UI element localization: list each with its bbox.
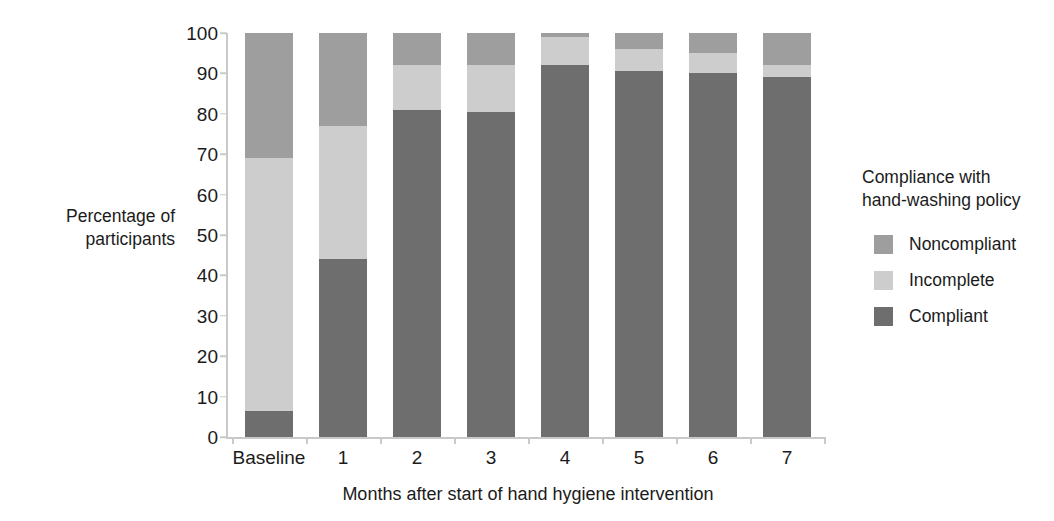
- x-axis-tick-label: 3: [486, 447, 497, 469]
- bar-segment-incomplete: [541, 37, 589, 65]
- x-axis-tick-label: 5: [634, 447, 645, 469]
- y-axis-tick-label: 60: [197, 185, 218, 204]
- bar-stack: [393, 33, 441, 437]
- y-axis-tick-label: 80: [197, 104, 218, 123]
- y-axis-tick-label: 10: [197, 387, 218, 406]
- bar-segment-noncompliant: [763, 33, 811, 65]
- x-axis-tick-mark: [454, 437, 456, 444]
- x-axis-tick-mark: [232, 437, 234, 444]
- legend: Compliance with hand-washing policy Nonc…: [862, 166, 1054, 334]
- y-axis-tick-mark: [220, 436, 227, 438]
- bar-stack: [245, 33, 293, 437]
- bar-segment-incomplete: [319, 126, 367, 259]
- bar-segment-compliant: [615, 71, 663, 437]
- bar-segment-compliant: [319, 259, 367, 437]
- legend-label: Noncompliant: [909, 234, 1016, 255]
- y-axis-tick-label: 40: [197, 266, 218, 285]
- bar-segment-incomplete: [245, 158, 293, 411]
- bar-segment-compliant: [467, 112, 515, 437]
- bar-segment-noncompliant: [393, 33, 441, 65]
- x-axis-tick-mark: [380, 437, 382, 444]
- bar-stack: [319, 33, 367, 437]
- y-axis-tick-mark: [220, 32, 227, 34]
- bar-segment-noncompliant: [689, 33, 737, 53]
- bar-segment-incomplete: [467, 65, 515, 111]
- legend-item-incomplete[interactable]: Incomplete: [862, 262, 1054, 298]
- bar-segment-noncompliant: [245, 33, 293, 158]
- y-axis-tick-label: 0: [207, 428, 218, 447]
- legend-swatch-icon: [874, 235, 893, 254]
- x-axis-line: [226, 437, 826, 439]
- y-axis-tick-label: 100: [186, 24, 218, 43]
- bar-segment-compliant: [689, 73, 737, 437]
- y-axis-tick-mark: [220, 315, 227, 317]
- x-axis-tick-mark: [676, 437, 678, 444]
- legend-title: Compliance with hand-washing policy: [862, 166, 1054, 212]
- x-axis-tick-mark: [750, 437, 752, 444]
- x-axis-title: Months after start of hand hygiene inter…: [232, 484, 824, 505]
- x-axis-tick-mark: [306, 437, 308, 444]
- y-axis-tick-mark: [220, 275, 227, 277]
- bar-stack: [615, 33, 663, 437]
- y-axis-tick-mark: [220, 194, 227, 196]
- plot-area: 0102030405060708090100Baseline1234567: [232, 33, 824, 437]
- legend-swatch-icon: [874, 271, 893, 290]
- y-axis-title: Percentage of participants: [10, 205, 175, 251]
- legend-label: Incomplete: [909, 270, 995, 291]
- y-axis-tick-label: 50: [197, 226, 218, 245]
- x-axis-tick-label: 2: [412, 447, 423, 469]
- x-axis-tick-label: 4: [560, 447, 571, 469]
- y-axis-tick-mark: [220, 153, 227, 155]
- bar-stack: [467, 33, 515, 437]
- bar-segment-incomplete: [689, 53, 737, 73]
- x-axis-tick-mark: [528, 437, 530, 444]
- bar-segment-noncompliant: [467, 33, 515, 65]
- bar-segment-noncompliant: [615, 33, 663, 49]
- bar-segment-compliant: [541, 65, 589, 437]
- legend-swatch-icon: [874, 307, 893, 326]
- x-axis-tick-label: 1: [338, 447, 349, 469]
- bar-stack: [689, 33, 737, 437]
- legend-item-compliant[interactable]: Compliant: [862, 298, 1054, 334]
- y-axis-tick-label: 90: [197, 64, 218, 83]
- bar-segment-compliant: [245, 411, 293, 437]
- legend-item-noncompliant[interactable]: Noncompliant: [862, 226, 1054, 262]
- x-axis-tick-label: Baseline: [233, 447, 306, 469]
- y-axis-tick-mark: [220, 234, 227, 236]
- y-axis-tick-label: 20: [197, 347, 218, 366]
- y-axis-tick-label: 70: [197, 145, 218, 164]
- bar-segment-incomplete: [763, 65, 811, 77]
- bar-segment-incomplete: [615, 49, 663, 71]
- x-axis-tick-label: 6: [708, 447, 719, 469]
- bar-stack: [763, 33, 811, 437]
- y-axis-tick-mark: [220, 355, 227, 357]
- bar-segment-noncompliant: [319, 33, 367, 126]
- y-axis-tick-label: 30: [197, 306, 218, 325]
- y-axis-tick-mark: [220, 396, 227, 398]
- x-axis-tick-mark: [824, 437, 826, 444]
- bar-segment-compliant: [393, 110, 441, 437]
- stacked-bar-chart: Percentage of participants 0102030405060…: [0, 0, 1054, 521]
- legend-label: Compliant: [909, 306, 988, 327]
- bar-stack: [541, 33, 589, 437]
- y-axis-tick-mark: [220, 73, 227, 75]
- bar-segment-compliant: [763, 77, 811, 437]
- y-axis-tick-mark: [220, 113, 227, 115]
- bar-segment-incomplete: [393, 65, 441, 109]
- x-axis-tick-mark: [602, 437, 604, 444]
- x-axis-tick-label: 7: [782, 447, 793, 469]
